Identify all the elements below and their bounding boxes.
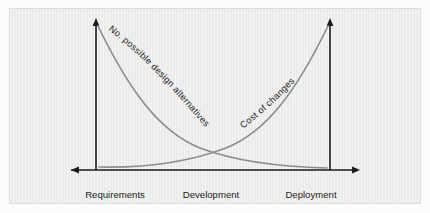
- left-axis-arrow-icon: [93, 18, 100, 26]
- curve-label-design-alternatives-text: No. possible design alternatives: [107, 24, 212, 129]
- right-axis-arrow-icon: [327, 18, 334, 26]
- curve-label-design-alternatives: No. possible design alternatives: [107, 24, 212, 129]
- x-axis-label-deployment-line1: Deployment: [268, 189, 354, 202]
- x-axis-label-development: Development phase: [168, 176, 254, 213]
- x-axis-label-requirements: Requirements phase: [72, 176, 158, 213]
- curve-label-cost-of-changes-text: Cost of changes: [238, 76, 296, 131]
- x-axis-right-arrow-icon: [352, 167, 360, 174]
- screenshot-root: No. possible design alternatives Cost of…: [0, 0, 430, 213]
- x-axis-label-development-line1: Development: [168, 189, 254, 202]
- x-axis-label-deployment: Deployment phase: [268, 176, 354, 213]
- axis-group: [71, 18, 360, 173]
- curve-label-cost-of-changes: Cost of changes: [238, 76, 296, 131]
- x-axis-label-requirements-line1: Requirements: [72, 189, 158, 202]
- x-axis-left-arrow-icon: [71, 167, 79, 174]
